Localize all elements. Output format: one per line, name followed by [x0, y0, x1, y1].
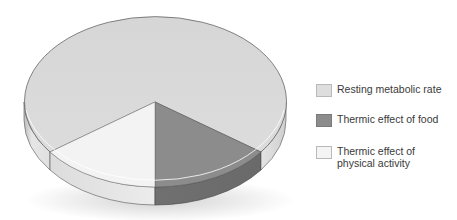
legend-label: Thermic effect of physical activity — [337, 145, 415, 169]
legend-item-thermic-effect-of-physical-activity: Thermic effect of physical activity — [316, 146, 415, 169]
legend-item-thermic-effect-of-food: Thermic effect of food — [316, 114, 438, 127]
legend-swatch — [316, 84, 332, 97]
legend-label: Thermic effect of food — [337, 113, 438, 125]
legend-label: Resting metabolic rate — [337, 83, 441, 95]
pie-chart — [0, 0, 457, 220]
legend-swatch — [316, 114, 332, 127]
legend-item-resting-metabolic-rate: Resting metabolic rate — [316, 84, 441, 97]
legend-swatch — [316, 146, 332, 159]
